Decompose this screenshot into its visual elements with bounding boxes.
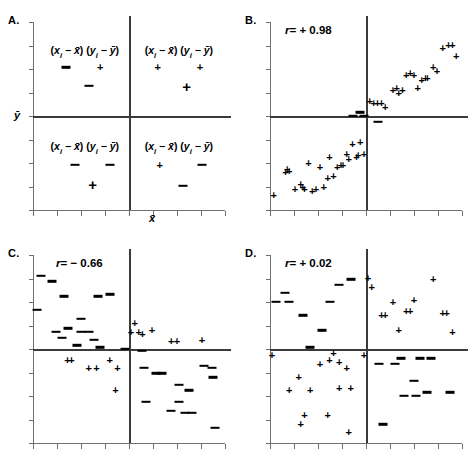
panel-b-x-tick [462, 211, 463, 216]
data-point-minus [59, 295, 68, 297]
panel-a-x-tick [81, 211, 82, 216]
data-point-minus [52, 331, 61, 333]
data-point-minus [61, 66, 70, 68]
panel-d-letter: D. [245, 247, 256, 259]
panel-c-x-tick [33, 444, 34, 449]
data-point-plus: + [157, 159, 163, 170]
panel-c-letter: C. [8, 247, 19, 259]
panel-b-r-value: = + 0.98 [289, 24, 331, 36]
data-point-minus [140, 367, 149, 369]
data-point-plus: + [107, 355, 113, 366]
panel-a-mean-y-line [33, 116, 231, 118]
panel-d-y-tick [266, 326, 271, 327]
data-point-plus: + [149, 325, 155, 336]
panel-b-x-tick [366, 211, 367, 216]
panel-b-r-label: r= + 0.98 [285, 24, 332, 36]
data-point-plus: + [361, 148, 367, 159]
data-point-plus: + [346, 154, 352, 165]
data-point-plus: + [336, 357, 342, 368]
panel-b-y-tick [266, 46, 271, 47]
panel-d-plot-area: +++++++++++++++++++++++++++++ [270, 255, 462, 443]
panel-a-y-tick [29, 210, 34, 211]
data-point-minus [157, 372, 166, 374]
panel-d-x-tick [390, 444, 391, 449]
data-point-minus [423, 391, 432, 393]
data-point-minus [335, 284, 344, 286]
data-point-plus: + [443, 308, 449, 319]
panel-c-y-tick [29, 326, 34, 327]
data-point-plus: + [305, 158, 311, 169]
panel-d-y-tick [266, 302, 271, 303]
data-point-minus [348, 115, 357, 117]
panel-a-x-tick [33, 211, 34, 216]
panel-d-y-tick [266, 443, 271, 444]
panel-b-x-tick [342, 211, 343, 216]
data-point-minus [356, 111, 365, 113]
data-point-plus: + [93, 362, 99, 373]
panel-a-y-tick [29, 93, 34, 94]
data-point-minus [77, 318, 86, 320]
panel-a-x-tick [105, 211, 106, 216]
panel-c-x-tick [225, 444, 226, 449]
data-point-minus [142, 400, 151, 402]
panel-c-y-tick [29, 420, 34, 421]
data-point-minus [84, 331, 93, 333]
data-point-plus: + [453, 50, 459, 61]
data-point-plus: + [321, 182, 327, 193]
data-point-plus: + [317, 161, 323, 172]
data-point-plus: + [284, 163, 290, 174]
panel-a-x-tick [129, 211, 130, 216]
data-point-minus [48, 280, 57, 282]
data-point-plus: + [286, 385, 292, 396]
panel-d-x-tick [366, 444, 367, 449]
panel-c-x-tick [177, 444, 178, 449]
data-point-plus: + [336, 383, 342, 394]
data-point-plus: + [424, 73, 430, 84]
panel-d: D. +++++++++++++++++++++++++++++ r= + 0.… [237, 233, 474, 467]
data-point-minus [167, 410, 176, 412]
data-point-minus [373, 120, 382, 122]
panel-d-y-tick [266, 255, 271, 256]
data-point-plus: + [369, 281, 375, 292]
data-point-plus: + [326, 355, 332, 366]
data-point-plus: + [197, 62, 203, 73]
data-point-minus [105, 164, 114, 166]
data-point-minus [94, 295, 103, 297]
data-point-plus: + [430, 274, 436, 285]
data-point-minus [96, 346, 105, 348]
data-point-minus [71, 164, 80, 166]
panel-b-mean-x-line [366, 16, 368, 210]
data-point-minus [188, 412, 197, 414]
panel-c-x-tick [57, 444, 58, 449]
quadrant-formula-lower-left: (xi − x̄) (yi − ȳ) [51, 140, 119, 155]
data-point-plus: + [271, 189, 277, 200]
data-point-plus: + [324, 409, 330, 420]
panel-a-x-tick [177, 211, 178, 216]
panel-c-y-tick [29, 279, 34, 280]
panel-b-y-tick [266, 140, 271, 141]
data-point-plus: + [199, 334, 205, 345]
data-point-plus: + [313, 184, 319, 195]
data-point-minus [73, 344, 82, 346]
panel-c-r-value: = − 0.66 [60, 257, 102, 269]
data-point-minus [360, 115, 369, 117]
data-point-minus [427, 357, 436, 359]
data-point-plus: + [112, 385, 118, 396]
data-point-plus: + [174, 336, 180, 347]
data-point-minus [306, 346, 315, 348]
data-point-minus [121, 348, 130, 350]
panel-c-x-tick [201, 444, 202, 449]
panel-a-y-tick [29, 140, 34, 141]
data-point-minus [36, 274, 45, 276]
panel-d-x-tick [414, 444, 415, 449]
data-point-plus: + [434, 65, 440, 76]
data-point-minus [32, 308, 41, 310]
data-point-minus [207, 367, 216, 369]
panel-c-mean-y-line [33, 349, 231, 351]
panel-d-x-tick [318, 444, 319, 449]
panel-d-r-label: r= + 0.02 [285, 257, 332, 269]
data-point-plus: + [88, 176, 97, 191]
quadrant-formula-upper-left: (xi − x̄) (yi − ȳ) [51, 45, 119, 60]
panel-b-y-tick [266, 69, 271, 70]
panel-b-x-tick [270, 211, 271, 216]
